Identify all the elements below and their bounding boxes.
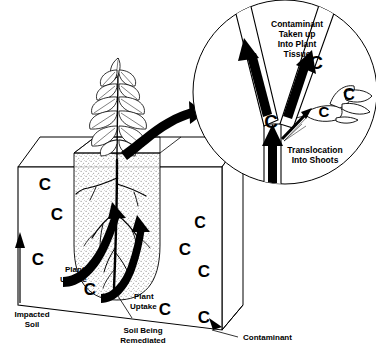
phytoremediation-diagram: C C C C C C C C C C C C C Contaminant Ta… — [0, 0, 376, 352]
contaminant-marker: C — [32, 250, 44, 269]
label-line: Impacted — [14, 310, 49, 319]
label-contaminant: Contaminant — [243, 333, 292, 342]
contaminant-marker: C — [319, 103, 330, 120]
label-line: Soil Being — [123, 326, 162, 335]
label-line: Soil — [25, 320, 40, 329]
label-line: Plant — [65, 265, 85, 274]
contaminant-marker: C — [159, 300, 171, 319]
label-line: Contaminant — [271, 19, 323, 29]
contaminant-marker: C — [309, 52, 323, 73]
label-line: Tissue — [284, 49, 311, 59]
label-line: Remediated — [120, 336, 165, 345]
label-line: Into Shoots — [292, 155, 339, 165]
contaminant-marker: C — [39, 175, 51, 194]
label-line: Uptake — [60, 275, 87, 284]
label-soil-being-remediated: Soil Being Remediated — [120, 326, 165, 345]
label-plant-uptake-left: Plant Uptake — [60, 265, 87, 284]
label-plant-uptake-right: Plant Uptake — [130, 292, 157, 311]
label-impacted-soil: Impacted Soil — [14, 310, 49, 329]
label-line: Translocation — [287, 145, 342, 155]
contaminant-marker: C — [198, 262, 210, 281]
leader-contaminant — [212, 330, 238, 337]
contaminant-marker: C — [343, 86, 355, 103]
contaminant-marker: C — [198, 308, 210, 327]
label-translocation: Translocation Into Shoots — [287, 145, 342, 165]
label-line: Uptake — [130, 302, 157, 311]
contaminant-marker: C — [179, 240, 191, 259]
label-line: Into Plant — [278, 39, 317, 49]
contaminant-marker: C — [264, 111, 278, 132]
contaminant-marker: C — [194, 214, 206, 231]
label-line: Taken up — [279, 29, 316, 39]
diagram-canvas: C C C C C C C C C C C C C Contaminant Ta… — [0, 0, 376, 352]
contaminant-marker: C — [51, 205, 63, 224]
label-line: Plant — [134, 292, 154, 301]
